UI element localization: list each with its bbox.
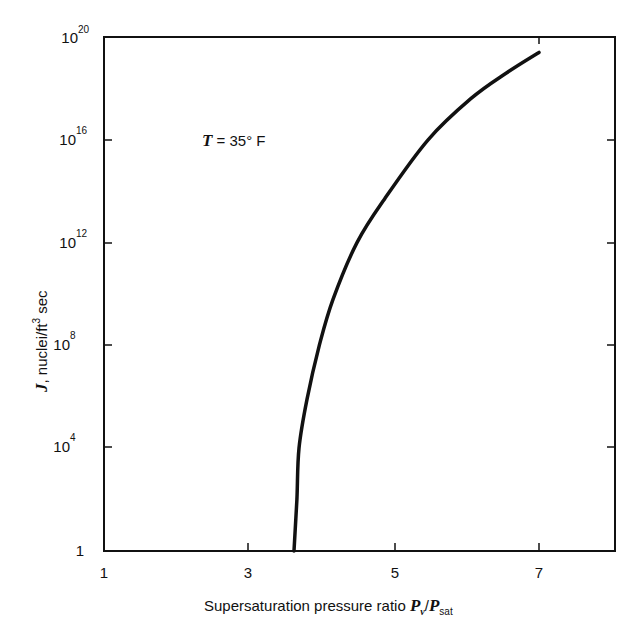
y-tick-label-1e4: 10 [53, 438, 70, 455]
chart-canvas: 1 3 5 7 1 10 4 10 8 10 12 10 16 10 20 Su… [0, 0, 632, 628]
y-axis-title-j: J [32, 383, 51, 393]
y-tick-base: 10 [53, 336, 70, 353]
x-tick-label-3: 3 [244, 564, 252, 581]
x-axis-title-text: Supersaturation pressure ratio [204, 597, 410, 614]
x-axis-title: Supersaturation pressure ratio Pv/Psat [204, 596, 453, 617]
plot-frame [104, 37, 615, 551]
y-tick-label-1e20: 10 [61, 29, 78, 46]
y-tick-label-1: 1 [76, 542, 84, 559]
y-tick-label-1e8: 10 [53, 336, 70, 353]
x-tick-label-1: 1 [100, 564, 108, 581]
temperature-annotation: T = 35° F [202, 131, 266, 150]
y-tick-label-1e12: 10 [59, 234, 76, 251]
x-tick-label-7: 7 [535, 564, 543, 581]
y-tick-base: 10 [59, 234, 76, 251]
x-tick-label-5: 5 [391, 564, 399, 581]
x-ticks [248, 37, 539, 551]
y-tick-exp-20: 20 [78, 24, 90, 35]
x-axis-title-pv: P [409, 596, 421, 615]
x-axis-title-sat-sub: sat [439, 606, 453, 617]
x-tick-labels: 1 3 5 7 [100, 564, 543, 581]
y-axis-title: J, nuclei/ft3 sec [31, 290, 51, 393]
y-tick-label-1e16: 10 [59, 131, 76, 148]
y-tick-exp-8: 8 [70, 330, 76, 341]
y-tick-exp-12: 12 [76, 228, 88, 239]
y-tick-base: 10 [59, 131, 76, 148]
y-tick-exp-16: 16 [76, 125, 88, 136]
y-ticks [104, 140, 615, 447]
nucleation-rate-curve [294, 52, 539, 551]
x-axis-title-psat: P [428, 596, 440, 615]
annotation-t: T [202, 131, 213, 150]
y-tick-base: 10 [53, 438, 70, 455]
y-tick-base: 10 [61, 29, 78, 46]
annotation-value: = 35° F [212, 132, 265, 149]
y-axis-title-sec: sec [33, 290, 50, 318]
y-axis-title-units: , nuclei/ft [33, 323, 50, 384]
y-tick-exp-4: 4 [70, 432, 76, 443]
y-tick-labels: 1 10 4 10 8 10 12 10 16 10 20 [53, 24, 89, 559]
